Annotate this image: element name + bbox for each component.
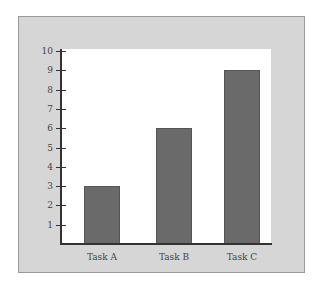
- y-tick-label: 7: [33, 104, 53, 114]
- bar-task-a: [84, 186, 120, 244]
- y-axis: [60, 49, 62, 245]
- x-axis: [60, 243, 272, 245]
- y-tick-label: 10: [33, 46, 53, 56]
- bar-task-c: [224, 70, 260, 244]
- y-tick-label: 2: [33, 200, 53, 210]
- y-tick-label: 1: [33, 220, 53, 230]
- y-tick-label: 3: [33, 181, 53, 191]
- y-tick-label: 8: [33, 85, 53, 95]
- y-tick-label: 6: [33, 123, 53, 133]
- y-tick-label: 5: [33, 143, 53, 153]
- bar-task-b: [156, 128, 192, 244]
- y-tick-label: 9: [33, 65, 53, 75]
- x-tick-label: Task B: [144, 252, 204, 262]
- x-tick-label: Task A: [72, 252, 132, 262]
- y-tick-label: 4: [33, 162, 53, 172]
- x-tick-label: Task C: [212, 252, 272, 262]
